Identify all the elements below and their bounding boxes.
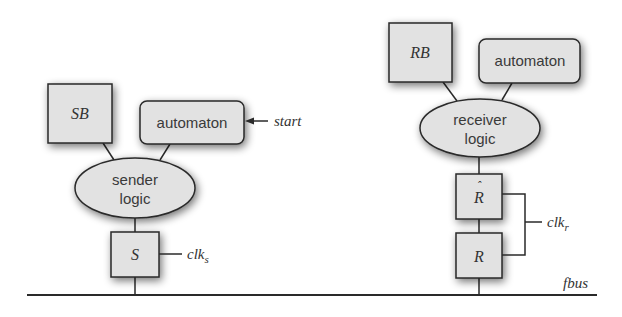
sender-side: SB automaton start sender logic S clks [48,84,302,295]
sender-register-label: S [131,246,139,263]
sender-buffer-node: SB [48,84,112,143]
receiver-automaton-node: automaton [479,39,580,83]
sender-logic-node: sender logic [75,158,195,218]
sb-to-logic-connector [103,143,114,160]
start-label: start [274,113,302,129]
fbus-label: fbus [563,275,588,291]
diagram-canvas: fbus SB automaton start sender logic [0,0,622,317]
rb-to-logic-connector [443,82,457,101]
receiver-buffer-label: RB [409,44,430,61]
sender-logic-line1: sender [112,171,158,188]
sender-automaton-label: automaton [157,114,228,131]
start-arrow-head-icon [245,118,254,125]
clk-r-bracket [502,194,525,255]
receiver-automaton-label: automaton [495,52,566,69]
clk-r-label: clkr [547,214,569,233]
automaton-to-logic-connector [160,144,170,160]
receiver-logic-line1: receiver [453,111,506,128]
receiver-buffer-node: RB [389,23,452,82]
receiver-logic-node: receiver logic [420,99,540,157]
sender-logic-line2: logic [120,190,151,207]
sender-automaton-node: automaton [140,101,244,144]
receiver-register-label: R [473,248,484,265]
receiver-logic-line2: logic [465,130,496,147]
clk-s-label: clks [187,246,209,265]
receiver-register-hat-node: R ˆ [456,174,502,219]
automaton-to-logic-connector-r [502,83,512,100]
receiver-register-node: R [456,233,502,278]
sender-buffer-label: SB [71,105,89,122]
receiver-side: RB automaton receiver logic R ˆ R clkr [389,23,580,295]
sender-register-node: S [111,232,159,277]
